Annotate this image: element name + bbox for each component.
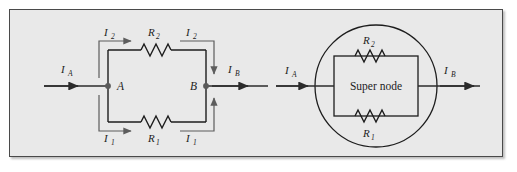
figure-panel	[9, 9, 503, 157]
figure-root: I A I B I 2 I 2 I 1 I 1 R 2 R 1 A B	[0, 0, 517, 172]
